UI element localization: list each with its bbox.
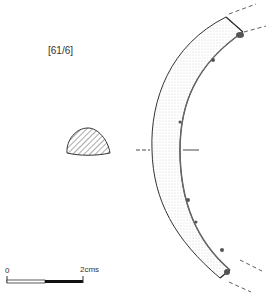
projection-lines: [229, 4, 266, 292]
scale-start-label: 0: [5, 266, 9, 275]
ring-fragment: [152, 17, 244, 278]
scale-end-label: 2cms: [80, 265, 99, 274]
cross-section-shape: [67, 128, 110, 155]
artifact-drawing: [0, 0, 271, 294]
scale-bar: [7, 276, 83, 283]
